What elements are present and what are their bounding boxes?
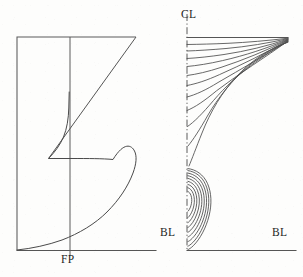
blob-level-9 (188, 191, 192, 211)
right-panel-upper-contours (187, 38, 288, 166)
figure-canvas (0, 0, 303, 277)
blob-level-1 (188, 169, 211, 250)
left-panel-box-frame (17, 37, 136, 250)
left-panel-profile-curve (17, 92, 136, 250)
left-panel-bl-label: BL (160, 226, 176, 238)
left-panel (17, 37, 156, 256)
contour-level-11 (189, 42, 288, 166)
right-panel-cl-label: CL (181, 8, 197, 20)
right-panel-lower-blob-contours (188, 169, 211, 250)
right-panel (187, 14, 296, 251)
contour-level-9 (188, 41, 289, 126)
blob-level-5 (188, 178, 202, 232)
left-panel-fp-label: FP (61, 253, 75, 265)
figure-container: BL FP CL BL (0, 0, 303, 277)
right-panel-bl-label: BL (272, 226, 288, 238)
